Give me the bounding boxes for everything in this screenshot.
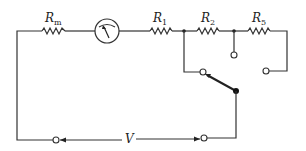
galvanometer-icon	[95, 19, 119, 43]
wire-left	[17, 31, 56, 140]
wire-r5-tap	[269, 31, 287, 71]
label-r5: R5	[252, 12, 266, 27]
wire-switch-bottom	[207, 91, 236, 138]
terminal-v-right	[201, 135, 207, 141]
arrow-right-icon	[194, 137, 200, 142]
resistor-rm	[42, 28, 65, 34]
wire-tap-1	[184, 31, 200, 72]
label-r2: R2	[201, 12, 215, 27]
resistor-r5	[248, 28, 270, 34]
terminal-tap-2	[231, 52, 237, 58]
resistor-r1	[150, 28, 172, 34]
circuit-diagram: Rm R1 R2 R5 V	[0, 0, 306, 151]
arrow-left-icon	[60, 138, 66, 143]
label-r1: R1	[153, 12, 167, 27]
terminal-tap-3	[263, 68, 269, 74]
terminal-v-left	[53, 137, 59, 143]
label-v: V	[125, 133, 134, 145]
label-rm: Rm	[45, 12, 62, 27]
resistor-r2	[197, 28, 219, 34]
switch-arm	[207, 75, 236, 91]
